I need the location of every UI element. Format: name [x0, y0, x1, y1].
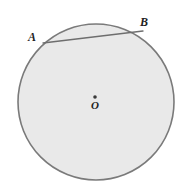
point-label-b: B — [140, 16, 148, 28]
point-label-a: A — [28, 31, 36, 43]
circle-diagram-canvas — [0, 0, 184, 193]
point-label-o: O — [91, 100, 99, 111]
geometry-figure: A B O — [0, 0, 184, 193]
